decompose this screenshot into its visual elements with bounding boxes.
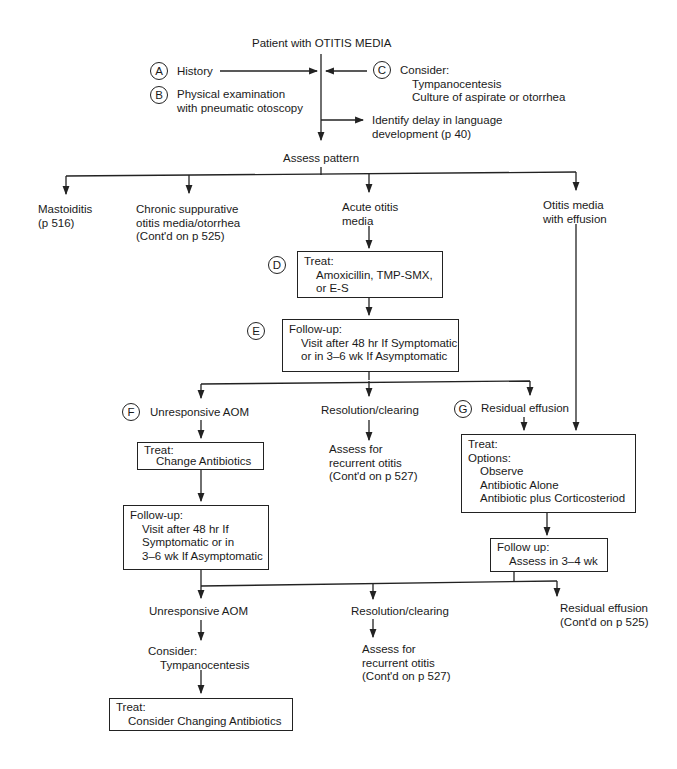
treat-f-box: Treat: Change Antibiotics	[137, 442, 264, 470]
treat-d-box: Treat: Amoxicillin, TMP-SMX, or E-S	[297, 251, 443, 298]
resolution-clearing-label: Resolution/clearing	[321, 404, 419, 418]
physical-exam-label: Physical examination with pneumatic otos…	[177, 88, 303, 115]
assess-recurrent-node: Assess for recurrent otitis (Cont'd on p…	[329, 443, 418, 484]
effusion-node: Otitis media with effusion	[543, 199, 607, 226]
chronic-suppurative-node: Chronic suppurative otitis media/otorrhe…	[136, 203, 240, 244]
step-f-marker: F	[122, 403, 140, 421]
step-d-marker: D	[268, 256, 286, 274]
followup-f-box: Follow-up: Visit after 48 hr If Symptoma…	[123, 505, 269, 570]
assess-pattern-label: Assess pattern	[283, 152, 359, 166]
followup-g-box: Follow up: Assess in 3–4 wk	[490, 538, 608, 572]
unresponsive-aom-label: Unresponsive AOM	[150, 406, 249, 420]
final-bar	[201, 581, 557, 586]
final-treat-box: Treat: Consider Changing Antibiotics	[109, 698, 293, 731]
acute-otitis-node: Acute otitis media	[342, 201, 398, 228]
final-resolution-label: Resolution/clearing	[351, 605, 449, 619]
chart-title: Patient with OTITIS MEDIA	[252, 37, 391, 51]
final-consider-block: Consider: Tympanocentesis	[148, 645, 250, 672]
followup-e-box: Follow-up: Visit after 48 hr If Symptoma…	[282, 319, 459, 372]
consider-c-block: Consider: Tympanocentesis Culture of asp…	[400, 64, 565, 105]
step-a-marker: A	[150, 62, 168, 80]
identify-delay-label: Identify delay in language development (…	[372, 114, 502, 141]
residual-effusion-label: Residual effusion	[481, 402, 569, 416]
final-unresponsive-label: Unresponsive AOM	[149, 605, 248, 619]
final-assess-recurrent-node: Assess for recurrent otitis (Cont'd on p…	[362, 643, 451, 684]
followup-bar	[201, 381, 530, 384]
step-b-marker: B	[150, 86, 168, 104]
flowchart-connectors	[0, 0, 677, 769]
step-c-marker: C	[373, 61, 391, 79]
step-g-marker: G	[454, 400, 472, 418]
history-label: History	[177, 65, 213, 79]
final-residual-effusion-node: Residual effusion (Cont'd on p 525)	[560, 602, 649, 629]
mastoiditis-node: Mastoiditis (p 516)	[38, 203, 92, 230]
treat-g-box: Treat: Options: Observe Antibiotic Alone…	[461, 434, 636, 513]
step-e-marker: E	[247, 322, 265, 340]
